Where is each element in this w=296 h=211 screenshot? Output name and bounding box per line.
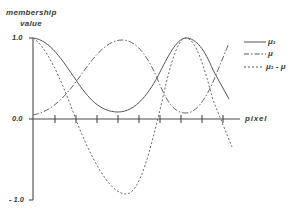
chart-plot xyxy=(0,0,296,211)
legend-label-mu1-minus-mu: μ₁ - μ xyxy=(266,62,286,71)
legend-label-mu1: μ₁ xyxy=(268,37,276,46)
series-mu1-line xyxy=(33,38,229,112)
legend xyxy=(244,42,266,67)
series-mu-line xyxy=(33,40,229,115)
axes xyxy=(29,38,240,200)
legend-label-mu: μ xyxy=(268,49,273,58)
